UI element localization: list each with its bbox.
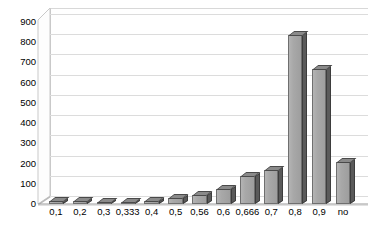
bar [240,176,254,204]
bar [73,201,87,204]
bar-side-face [350,158,355,204]
y-axis-tick-label: 200 [2,159,36,169]
y-axis-tick-label: 0 [2,199,36,209]
bar [192,195,206,204]
bar [168,198,182,204]
bar-side-face [255,172,260,204]
bar-side-face [302,32,307,204]
y-axis-tick-label: 700 [2,57,36,67]
bar-front-face [240,176,254,204]
y-axis: 0100200300400500600700800900 [0,0,36,228]
x-axis-tick-label: no [327,206,360,218]
bar [121,202,135,204]
bar-chart: 0100200300400500600700800900 0,10,20,30,… [0,0,371,228]
bar-top-face [97,198,118,203]
y-axis-tick-label: 100 [2,179,36,189]
bar-side-face [278,166,283,204]
y-axis-tick-label: 300 [2,138,36,148]
x-axis: 0,10,20,30,3330,40,50,560,60,6660,70,80,… [38,206,371,228]
bar [264,170,278,204]
y-axis-tick-label: 400 [2,118,36,128]
y-axis-tick-label: 800 [2,37,36,47]
bar-front-face [264,170,278,204]
bar-front-face [336,162,350,204]
y-axis-tick-label: 500 [2,98,36,108]
bar [216,189,230,204]
bar-front-face [312,69,326,204]
plot-area [38,8,371,208]
bar [97,202,111,204]
bar [312,69,326,204]
y-axis-tick-label: 900 [2,17,36,27]
bar [49,201,63,204]
y-axis-tick-label: 600 [2,78,36,88]
bar-front-face [216,189,230,204]
bars-group [38,8,371,208]
bar-front-face [192,195,206,204]
bar-top-face [121,198,142,203]
bar [288,35,302,204]
bar [144,201,158,204]
bar-front-face [288,35,302,204]
bar-side-face [326,65,331,204]
bar [336,162,350,204]
